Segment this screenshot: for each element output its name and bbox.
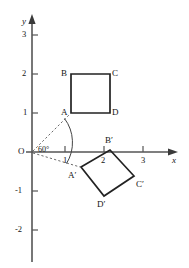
vertex-label-c-prime: C′ [136, 180, 144, 189]
y-tick-label-neg2: -2 [15, 225, 22, 234]
y-tick-label-1: 1 [23, 108, 27, 117]
dashed-ray-OAprime [33, 153, 80, 167]
square-abcd-prime [81, 150, 134, 196]
vertex-label-d-prime: D′ [97, 200, 105, 209]
y-tick-label-3: 3 [22, 30, 26, 39]
y-axis-arrowhead [28, 14, 35, 24]
x-tick-label-1: 1 [63, 156, 67, 165]
x-axis-label: x [172, 156, 176, 165]
y-tick-label-2: 2 [22, 69, 26, 78]
vertex-label-d: D [112, 108, 119, 117]
y-tick-label-neg1: -1 [15, 186, 22, 195]
y-axis-ticks [32, 35, 38, 230]
vertex-label-c: C [112, 69, 118, 78]
vertex-label-b: B [61, 69, 67, 78]
x-axis-ticks [65, 146, 143, 152]
origin-label: O [18, 147, 25, 156]
vertex-label-a-prime: A′ [68, 171, 76, 180]
x-tick-label-3: 3 [141, 156, 145, 165]
x-tick-label-2: 2 [101, 156, 105, 165]
angle-label-60: 60° [38, 145, 49, 154]
figure-svg [0, 0, 189, 268]
square-abcd [71, 74, 110, 113]
vertex-label-a: A [61, 108, 68, 117]
coordinate-figure: y x O 3 2 1 -1 -2 1 2 3 60° A B C D A′ B… [0, 0, 189, 268]
vertex-label-b-prime: B′ [105, 136, 113, 145]
y-axis-label: y [22, 17, 26, 26]
